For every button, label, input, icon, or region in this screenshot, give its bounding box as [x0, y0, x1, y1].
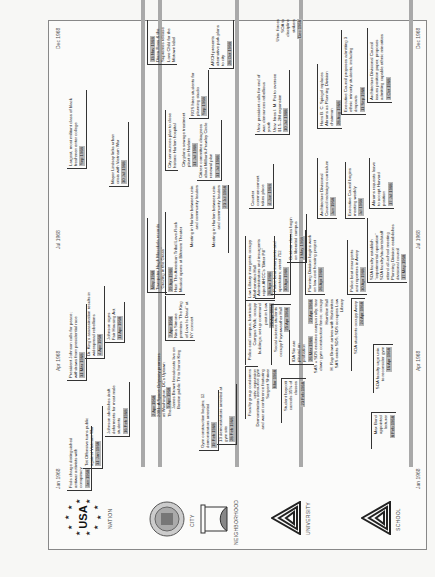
event-neighborhood-2: Meeting in Harlem between univ. and comm…	[189, 185, 199, 253]
city-seal-logo	[149, 501, 185, 537]
event-nation-6: Johnson signs Fair Housing Act11 Apr 196…	[105, 302, 125, 343]
event-city-0: 5 Apr 1968James Brown broadcasts live on…	[165, 343, 182, 409]
svg-text:★: ★	[93, 525, 99, 530]
event-neighborhood-3: Meeting in Harlem between univ. and comm…	[211, 185, 229, 253]
event-school-2: SOA students occupy Avery24 Apr 1968	[351, 298, 365, 371]
svg-text:★: ★	[96, 515, 102, 520]
event-nation-8: Largest, most militant class of black fr…	[67, 90, 87, 169]
event-school-11: Executive Council proposes admitting 3 e…	[341, 30, 366, 115]
event-university-10: Counter commencement takes place4 Jun 19…	[249, 164, 274, 209]
event-nation-1: Tet Offensive turns public against Vietn…	[83, 406, 103, 469]
event-university-2: Student boycott cancels 35% of classes23…	[281, 378, 306, 423]
event-city-4: City announces plan to close historic Ha…	[165, 110, 178, 171]
svg-text:★: ★	[75, 499, 81, 504]
event-school-7: Architecture Divisional Council redesign…	[317, 158, 337, 219]
timeline-frame: ★★★★★★★★★★USA NATION CITY NEIGHBORHOOD U…	[48, 20, 427, 550]
event-nation-4: President Johnson calls for peace; withd…	[67, 304, 87, 381]
row-label-school: SCHOOL	[395, 508, 401, 531]
svg-text:★: ★	[85, 531, 91, 536]
event-neighborhood-4: Citizen committee disagrees about Milban…	[197, 120, 222, 181]
event-neighborhood-5: RGS hires students for planning studioSe…	[189, 70, 209, 119]
event-city-5: City plans sewage treatment plant in Har…	[181, 111, 198, 167]
neighborhood-seal-logo	[199, 503, 229, 535]
event-school-1: SOA faculty urge univ. to reconsider gym…	[373, 344, 393, 393]
svg-text:★: ★	[67, 505, 73, 510]
school-triangle-logo	[361, 501, 391, 535]
event-university-14: 23 Apr 1968SAS + SDS endorse campus rall…	[307, 299, 344, 379]
event-city-3: Mayor Lindsay links urban crisis with Vi…	[109, 122, 129, 187]
month-label-jul-top: Jul 1968	[55, 230, 61, 249]
month-label-jul-bottom: Jul 1968	[415, 230, 421, 249]
event-school-3: Police beat insurgents and reporters in …	[347, 240, 367, 295]
month-label-apr-top: Apr 1968	[55, 351, 61, 371]
event-school-4: SOA faculty establish "experimental oper…	[367, 218, 407, 283]
event-school-8: Executive Council begins meeting weeklyJ…	[345, 162, 365, 219]
event-nation-2: Johnson abolishes draft deferments for m…	[105, 382, 130, 437]
event-university-9: Outdoor classes begin on liberated campu…	[287, 214, 307, 263]
nation-axis	[141, 0, 145, 467]
event-university-11: Univ. president calls for end of war; de…	[255, 70, 290, 135]
row-label-nation: NATION	[107, 509, 113, 529]
event-university-4: Social science students occupy Fayerweat…	[271, 304, 291, 365]
svg-text:★: ★	[64, 515, 70, 520]
event-neighborhood-1: 13 demonstrators arrested at gym site28 …	[217, 384, 237, 445]
event-school-9: Abrams requests leave to accept Harvard …	[369, 158, 394, 209]
month-label-jan-top: Jan 1968	[55, 468, 61, 489]
month-label-dec-bottom: Dec 1968	[415, 28, 421, 49]
month-label-dec-top: Dec 1968	[55, 28, 61, 49]
event-university-13: Univ. forces SOA to discipline strikersD…	[275, 19, 302, 49]
row-label-neighborhood: NEIGHBORHOOD	[233, 500, 239, 545]
row-label-university: UNIVERSITY	[305, 502, 311, 535]
event-school-10: Hans B. C. Spiegel replaces Abrams as Pl…	[317, 64, 342, 129]
svg-text:★: ★	[67, 525, 73, 530]
svg-text:USA: USA	[77, 505, 89, 528]
university-triangle-logo	[271, 501, 301, 535]
svg-text:★: ★	[85, 499, 91, 504]
svg-text:★: ★	[75, 531, 81, 536]
event-city-1: 7 Apr 1968Nina Simone premiers "The King…	[165, 296, 195, 341]
event-school-12: Architecture Divisional Council issues p…	[367, 28, 392, 103]
event-university-1: Demonstrators denounce gym and war at co…	[255, 369, 277, 431]
event-university-17: Planning Division begins work on low-cos…	[305, 230, 325, 295]
school-axis	[409, 0, 413, 467]
event-neighborhood-6: ARCH presents alternative park plans to …	[209, 20, 234, 69]
event-neighborhood-0: Gym construction begins; 12 demonstrator…	[199, 390, 219, 451]
timeline-stage: ★★★★★★★★★★USA NATION CITY NEIGHBORHOOD U…	[0, 0, 435, 577]
event-school-0: Max Bond appointed lecturer8 Feb 1968	[371, 412, 396, 449]
month-label-apr-bottom: Apr 1968	[415, 351, 421, 371]
svg-text:★: ★	[93, 505, 99, 510]
event-nation-5: Dr. King's assassination results in wide…	[85, 286, 105, 359]
event-nation-9: 13 Nov 1968Diana Ross & the Supremes rel…	[147, 20, 177, 65]
event-nation-7: May 1968Trumpeter Hugh Masekela records …	[147, 218, 167, 293]
usa-stars-logo: ★★★★★★★★★★USA	[63, 497, 103, 537]
row-label-city: CITY	[189, 514, 195, 527]
month-label-jan-bottom: Jan 1968	[415, 468, 421, 489]
event-city-2: 29 Apr 1968Hair: The American Tribal Lov…	[165, 212, 185, 295]
